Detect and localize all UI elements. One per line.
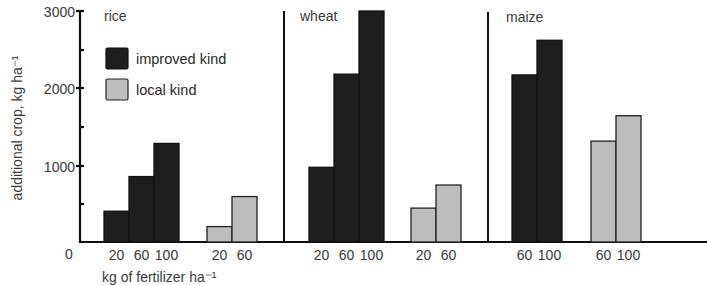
bar-maize-improved-60 xyxy=(512,75,537,242)
y-axis xyxy=(76,10,84,243)
bar-wheat-improved-100 xyxy=(359,11,384,242)
x-tick-maize-improved-60: 60 xyxy=(517,247,533,263)
x-tick-wheat-local-60: 60 xyxy=(441,247,457,263)
x-tick-labels: 20601002060206010020606010060100 xyxy=(109,247,641,263)
x-tick-rice-improved-60: 60 xyxy=(134,247,150,263)
legend-label-local: local kind xyxy=(136,82,196,98)
bar-wheat-improved-60 xyxy=(334,74,359,242)
legend-swatch-local xyxy=(106,79,128,100)
bar-rice-improved-100 xyxy=(154,143,179,242)
bar-maize-local-100 xyxy=(616,116,641,242)
y-tick-1000: 1000 xyxy=(44,159,75,175)
fertilizer-crop-chart: additional crop, kg ha⁻¹ 3000 2000 1000 … xyxy=(0,0,707,285)
group-label-wheat: wheat xyxy=(299,8,337,24)
x-axis-title: kg of fertilizer ha⁻¹ xyxy=(102,269,217,285)
bar-rice-improved-60 xyxy=(129,177,154,242)
x-tick-wheat-improved-60: 60 xyxy=(339,247,355,263)
bar-maize-improved-100 xyxy=(537,40,562,242)
legend: improved kind local kind xyxy=(106,48,226,100)
legend-label-improved: improved kind xyxy=(136,51,226,67)
x-tick-maize-local-100: 100 xyxy=(617,247,641,263)
legend-swatch-improved xyxy=(106,48,128,69)
x-tick-rice-improved-100: 100 xyxy=(155,247,179,263)
y-tick-2000: 2000 xyxy=(44,81,75,97)
bar-rice-improved-20 xyxy=(104,211,129,242)
x-tick-wheat-local-20: 20 xyxy=(416,247,432,263)
bar-wheat-local-20 xyxy=(411,208,436,242)
x-tick-rice-improved-20: 20 xyxy=(109,247,125,263)
x-tick-wheat-improved-100: 100 xyxy=(360,247,384,263)
x-tick-rice-local-20: 20 xyxy=(212,247,228,263)
bar-maize-local-60 xyxy=(591,141,616,242)
bars xyxy=(104,11,641,242)
y-tick-0: 0 xyxy=(65,246,73,262)
bar-rice-local-20 xyxy=(207,227,232,242)
y-axis-title: additional crop, kg ha⁻¹ xyxy=(9,55,25,200)
x-tick-rice-local-60: 60 xyxy=(237,247,253,263)
bar-wheat-local-60 xyxy=(436,185,461,242)
y-tick-3000: 3000 xyxy=(44,4,75,20)
bar-wheat-improved-20 xyxy=(309,167,334,242)
group-label-maize: maize xyxy=(506,9,544,25)
bar-rice-local-60 xyxy=(232,197,257,242)
x-tick-maize-local-60: 60 xyxy=(596,247,612,263)
group-label-rice: rice xyxy=(104,8,127,24)
x-tick-wheat-improved-20: 20 xyxy=(314,247,330,263)
x-tick-maize-improved-100: 100 xyxy=(538,247,562,263)
